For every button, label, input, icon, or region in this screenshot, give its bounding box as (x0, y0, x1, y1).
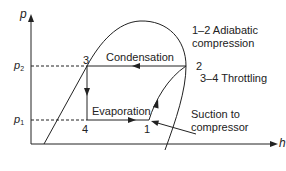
point-4-label: 4 (82, 124, 88, 135)
point-3-label: 3 (83, 55, 89, 66)
saturation-dome (44, 21, 186, 150)
compression-label-line2: compression (192, 38, 254, 49)
suction-arrow-icon (151, 121, 159, 127)
condensation-arrow-icon (132, 63, 140, 69)
suction-label-line1: Suction to (191, 109, 240, 120)
point-1-label: 1 (144, 124, 150, 135)
y-axis-label: p (20, 8, 27, 20)
evaporation-arrow-icon (128, 117, 136, 123)
suction-pointer-line (154, 122, 196, 134)
condensation-label: Condensation (106, 52, 174, 63)
throttling-label: 3–4 Throttling (200, 73, 267, 84)
compression-curve (149, 66, 186, 120)
x-axis-label: h (279, 137, 286, 149)
throttling-arrow-icon (84, 88, 90, 96)
compression-label-line1: 1–2 Adiabatic (192, 25, 258, 36)
x-axis-arrow-icon (270, 141, 278, 147)
y-axis-arrow-icon (28, 14, 34, 22)
p1-label: p1 (14, 114, 24, 126)
p2-label: p2 (14, 60, 24, 72)
suction-label-line2: compressor (191, 122, 248, 133)
p2-subscript: 2 (20, 65, 24, 72)
p1-subscript: 1 (20, 119, 24, 126)
evaporation-label: Evaporation (92, 106, 151, 117)
compression-arrow-icon (153, 99, 159, 109)
point-2-label: 2 (196, 61, 202, 72)
